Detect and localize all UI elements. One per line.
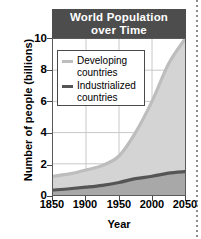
industrialized-countries-swatch bbox=[62, 85, 73, 88]
population-chart-figure: World Population over Time Number of peo… bbox=[0, 0, 201, 239]
x-axis-title: Year bbox=[52, 218, 186, 230]
legend-label-developing-line-2: countries bbox=[77, 67, 127, 79]
chart-title-banner: World Population over Time bbox=[52, 9, 186, 38]
legend-item-industrialized: Industrialized countries bbox=[62, 80, 140, 103]
legend-label-developing: Developing countries bbox=[77, 55, 127, 78]
x-tick-label-1900: 1900 bbox=[68, 198, 102, 210]
x-tick-label-2000: 2000 bbox=[135, 198, 169, 210]
x-tick-label-1850: 1850 bbox=[35, 198, 69, 210]
x-tick-label-1950: 1950 bbox=[102, 198, 136, 210]
y-tick-label-8: 8 bbox=[25, 63, 47, 75]
x-tick-label-2050: 2050 bbox=[168, 198, 201, 210]
legend-item-developing: Developing countries bbox=[62, 55, 140, 78]
legend-label-industrialized: Industrialized countries bbox=[77, 80, 136, 103]
legend-label-developing-line-1: Developing bbox=[77, 55, 127, 67]
chart-legend: Developing countries Industrialized coun… bbox=[57, 50, 145, 106]
y-tick-label-10: 10 bbox=[25, 32, 47, 44]
developing-countries-swatch bbox=[62, 60, 73, 63]
chart-title-line-2: over Time bbox=[91, 24, 147, 37]
legend-label-industrialized-line-2: countries bbox=[77, 92, 136, 104]
y-tick-label-2: 2 bbox=[25, 158, 47, 170]
chart-title-line-1: World Population bbox=[70, 11, 168, 24]
legend-label-industrialized-line-1: Industrialized bbox=[77, 80, 136, 92]
y-tick-label-4: 4 bbox=[25, 126, 47, 138]
y-tick-label-6: 6 bbox=[25, 95, 47, 107]
